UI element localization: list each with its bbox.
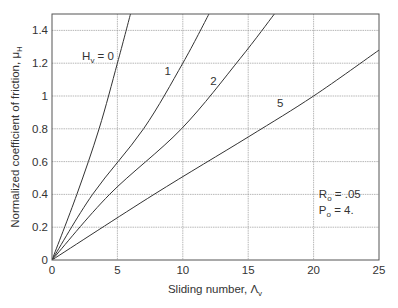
parameter-annotations: Ro = .05Po = 4. bbox=[319, 188, 361, 219]
curve-h1 bbox=[52, 14, 209, 260]
curve-label: 5 bbox=[277, 97, 283, 109]
curve-label: 2 bbox=[210, 75, 216, 87]
y-tick-label: 0.6 bbox=[32, 156, 48, 168]
y-tick-label: 0 bbox=[42, 254, 48, 266]
friction-chart: 0510152025 00.20.40.60.811.21.4 Hv = 012… bbox=[0, 0, 398, 308]
y-tick-label: 1 bbox=[42, 90, 48, 102]
x-tick-label: 25 bbox=[373, 264, 386, 276]
annotation-text: Po = 4. bbox=[319, 204, 354, 219]
x-tick-labels: 0510152025 bbox=[49, 264, 386, 276]
y-tick-label: 1.4 bbox=[32, 24, 49, 36]
x-tick-label: 0 bbox=[49, 264, 55, 276]
x-tick-label: 15 bbox=[242, 264, 255, 276]
y-tick-label: 0.8 bbox=[32, 123, 48, 135]
x-axis-label: Sliding number, Λv bbox=[168, 283, 262, 298]
y-tick-label: 1.2 bbox=[32, 57, 48, 69]
annotation-text: Ro = .05 bbox=[319, 188, 361, 203]
y-tick-labels: 00.20.40.60.811.21.4 bbox=[32, 24, 49, 266]
y-tick-label: 0.4 bbox=[32, 188, 49, 200]
y-tick-label: 0.2 bbox=[32, 221, 48, 233]
curve-h0 bbox=[52, 14, 130, 260]
x-tick-label: 5 bbox=[114, 264, 120, 276]
x-tick-label: 20 bbox=[307, 264, 320, 276]
y-axis-label: Normalized coefficient of friction, μH bbox=[9, 46, 24, 228]
x-tick-label: 10 bbox=[176, 264, 189, 276]
curve-label: 1 bbox=[164, 65, 170, 77]
curve-label: Hv = 0 bbox=[82, 50, 114, 65]
